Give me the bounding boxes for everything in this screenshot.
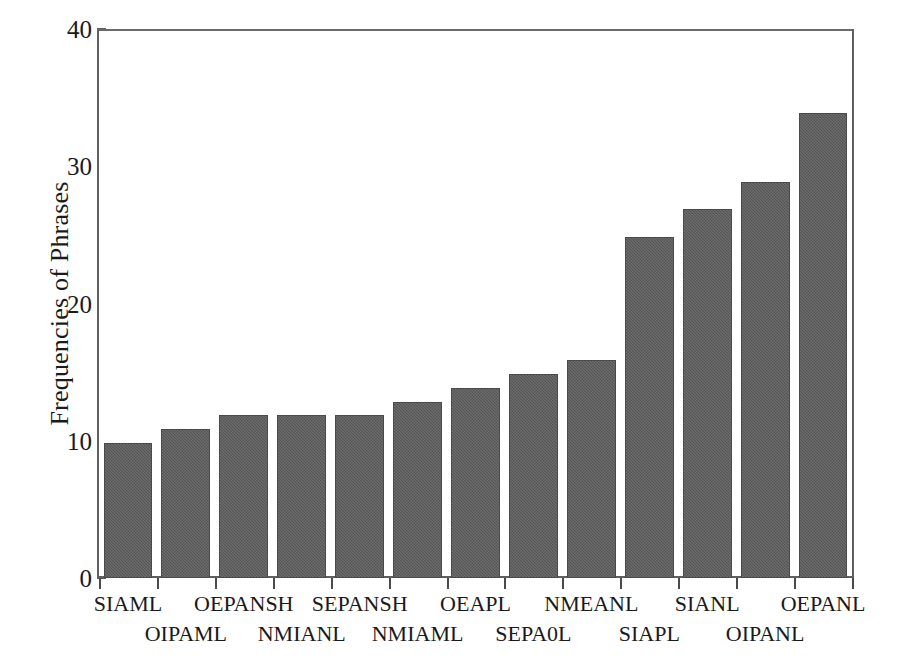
y-axis-tick-label: 20	[40, 291, 92, 316]
y-axis-tick-label: 40	[40, 17, 92, 42]
bar	[104, 443, 153, 578]
x-axis-tick-label: OIPANL	[726, 620, 805, 648]
x-axis-tick-label: OEAPL	[440, 590, 511, 618]
y-axis-tick-label: 30	[40, 154, 92, 179]
x-axis-tick-label: SIANL	[675, 590, 740, 618]
x-axis-tick-labels: SIAMLOIPAMLOEPANSHNMIANLSEPANSHNMIAMLOEA…	[0, 588, 902, 668]
x-axis-tick-label: OEPANSH	[194, 590, 293, 618]
x-axis-tick-label: SIAPL	[619, 620, 680, 648]
x-axis-tick-label: OIPAML	[145, 620, 227, 648]
x-axis-tick-label: NMIAML	[372, 620, 464, 648]
bar	[451, 388, 500, 578]
bar	[393, 402, 442, 578]
bar-chart-figure: Frequencies of Phrases 010203040 SIAMLOI…	[0, 0, 902, 668]
x-axis-tick-label: SEPA0L	[495, 620, 571, 648]
bar	[335, 415, 384, 578]
bar	[799, 113, 848, 578]
bar	[683, 209, 732, 578]
x-axis-tick-label: OEPANL	[781, 590, 866, 618]
bars-container	[99, 31, 852, 578]
bar	[161, 429, 210, 578]
y-axis-tick-labels: 010203040	[40, 0, 92, 668]
y-axis-tick-label: 10	[40, 428, 92, 453]
bar	[509, 374, 558, 578]
bar	[567, 360, 616, 578]
bar	[219, 415, 268, 578]
x-axis-tick-label: SIAML	[94, 590, 162, 618]
bar	[625, 237, 674, 578]
x-axis-tick-label: SEPANSH	[312, 590, 408, 618]
x-axis-tick-label: NMIANL	[258, 620, 346, 648]
bar	[741, 182, 790, 578]
x-axis-tick-label: NMEANL	[544, 590, 638, 618]
bar	[277, 415, 326, 578]
